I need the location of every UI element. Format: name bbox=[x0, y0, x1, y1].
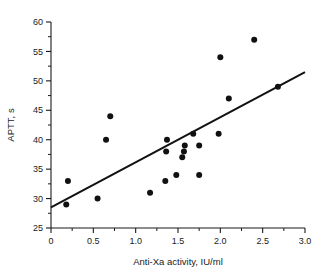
y-tick-label-50: 50 bbox=[33, 76, 43, 86]
x-axis-tick-labels: 00.51.01.52.02.53.0 bbox=[48, 236, 311, 246]
data-point bbox=[217, 54, 223, 60]
data-point bbox=[179, 154, 185, 160]
data-point bbox=[216, 131, 222, 137]
data-point bbox=[107, 113, 113, 119]
data-point bbox=[103, 137, 109, 143]
y-tick-label-55: 55 bbox=[33, 47, 43, 57]
x-axis-major-ticks bbox=[51, 228, 305, 233]
data-point bbox=[164, 137, 170, 143]
data-point bbox=[173, 172, 179, 178]
x-tick-label-1.0: 1.0 bbox=[129, 236, 142, 246]
data-point bbox=[275, 84, 281, 90]
y-tick-label-60: 60 bbox=[33, 17, 43, 27]
data-point bbox=[251, 37, 257, 43]
regression-line bbox=[51, 72, 305, 207]
x-tick-label-2.5: 2.5 bbox=[256, 236, 269, 246]
data-point bbox=[181, 148, 187, 154]
data-point bbox=[95, 196, 101, 202]
x-tick-label-0: 0 bbox=[48, 236, 53, 246]
data-point bbox=[190, 131, 196, 137]
x-tick-label-2.0: 2.0 bbox=[214, 236, 227, 246]
x-tick-label-0.5: 0.5 bbox=[87, 236, 100, 246]
y-tick-label-45: 45 bbox=[33, 105, 43, 115]
data-point bbox=[65, 178, 71, 184]
plot-canvas: 2530354045505560 00.51.01.52.02.53.0 Ant… bbox=[0, 0, 328, 272]
data-point bbox=[147, 190, 153, 196]
data-points-group bbox=[63, 37, 281, 208]
y-axis-title: APTT, s bbox=[5, 108, 16, 142]
x-axis-title: Anti-Xa activity, IU/ml bbox=[133, 256, 223, 267]
y-tick-label-40: 40 bbox=[33, 135, 43, 145]
y-tick-label-30: 30 bbox=[33, 194, 43, 204]
scatter-plot-figure: 2530354045505560 00.51.01.52.02.53.0 Ant… bbox=[0, 0, 328, 272]
data-point bbox=[196, 143, 202, 149]
data-point bbox=[182, 143, 188, 149]
data-point bbox=[196, 172, 202, 178]
x-tick-label-3.0: 3.0 bbox=[299, 236, 312, 246]
data-point bbox=[163, 148, 169, 154]
data-point bbox=[226, 96, 232, 102]
y-tick-label-35: 35 bbox=[33, 164, 43, 174]
y-axis-tick-labels: 2530354045505560 bbox=[33, 17, 43, 233]
data-point bbox=[63, 201, 69, 207]
data-point bbox=[162, 178, 168, 184]
y-tick-label-25: 25 bbox=[33, 223, 43, 233]
x-tick-label-1.5: 1.5 bbox=[172, 236, 185, 246]
